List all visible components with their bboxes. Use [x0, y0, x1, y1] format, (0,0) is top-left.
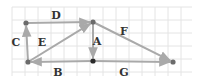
- vector-arrow-c: [26, 26, 28, 62]
- vector-arrow-b: [31, 61, 93, 62]
- vector-label-d: D: [51, 9, 61, 22]
- vector-arrow-g: [93, 61, 170, 62]
- node-dot-br: [170, 59, 175, 64]
- node-dot-bl: [25, 59, 30, 64]
- vector-arrow-d: [26, 22, 90, 23]
- vector-label-g: G: [119, 66, 128, 79]
- vector-label-a: A: [92, 35, 102, 48]
- vector-label-c: C: [12, 36, 21, 49]
- node-dot-tl: [23, 20, 28, 25]
- node-dot-bm: [90, 58, 95, 63]
- vector-label-b: B: [53, 66, 62, 79]
- node-dot-tm: [90, 19, 95, 24]
- vector-label-e: E: [38, 36, 46, 49]
- vector-arrow-f: [93, 22, 170, 61]
- vector-diagram: ABCDEFG: [0, 0, 199, 84]
- vector-label-f: F: [120, 25, 128, 38]
